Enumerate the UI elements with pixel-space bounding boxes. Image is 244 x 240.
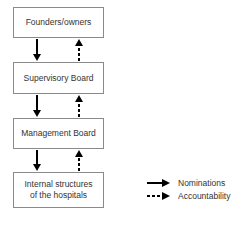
accountability-arrow-1 (75, 39, 83, 61)
accountability-arrow-2 (75, 95, 83, 117)
legend-nominations: Nominations (178, 178, 225, 188)
nomination-arrow-1 (33, 39, 41, 61)
legend-dashed-arrow-icon (147, 192, 170, 200)
accountability-arrow-3 (75, 150, 83, 171)
nomination-arrow-2 (33, 95, 41, 117)
legend-solid-arrow-icon (147, 179, 170, 187)
nomination-arrow-3 (33, 150, 41, 171)
legend-accountability: Accountability (178, 191, 230, 201)
